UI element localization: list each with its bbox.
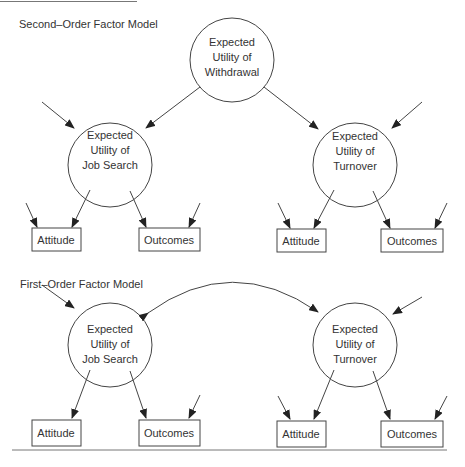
second-order-title: Second–Order Factor Model: [19, 18, 158, 30]
disturbance-turnover-upper: [392, 102, 422, 128]
path-withdrawal-turnover: [264, 87, 318, 129]
box-label-outcomes-to-lower: Outcomes: [387, 428, 438, 440]
box-label-attitude-js-lower: Attitude: [37, 427, 74, 439]
correlation-arc: [148, 282, 318, 313]
to-lower-line-1: Expected: [332, 323, 378, 335]
box-label-attitude-to-upper: Attitude: [282, 235, 319, 247]
to-lower-line-3: Turnover: [333, 353, 377, 365]
box-label-outcomes-js-lower: Outcomes: [144, 427, 195, 439]
to-upper-line-3: Turnover: [333, 160, 377, 172]
js-upper-line-1: Expected: [87, 129, 133, 141]
withdrawal-line-1: Expected: [209, 36, 255, 48]
withdrawal-line-3: Withdrawal: [205, 66, 259, 78]
diagram-canvas: Expected Utility of Withdrawal Expected …: [0, 0, 465, 467]
box-label-outcomes-to-upper: Outcomes: [387, 235, 438, 247]
js-upper-line-2: Utility of: [90, 144, 130, 156]
js-lower-line-2: Utility of: [90, 338, 130, 350]
box-label-outcomes-js-upper: Outcomes: [144, 234, 195, 246]
js-upper-line-3: Job Search: [82, 159, 138, 171]
path-withdrawal-jobsearch: [146, 87, 200, 128]
first-order-title: First–Order Factor Model: [20, 278, 143, 290]
withdrawal-line-2: Utility of: [212, 51, 252, 63]
to-upper-line-1: Expected: [332, 130, 378, 142]
to-upper-line-2: Utility of: [335, 145, 375, 157]
to-lower-line-2: Utility of: [335, 338, 375, 350]
box-label-attitude-to-lower: Attitude: [282, 428, 319, 440]
js-lower-line-1: Expected: [87, 323, 133, 335]
disturbance-jobsearch-upper: [42, 102, 74, 128]
box-label-attitude-js-upper: Attitude: [37, 234, 74, 246]
js-lower-line-3: Job Search: [82, 353, 138, 365]
